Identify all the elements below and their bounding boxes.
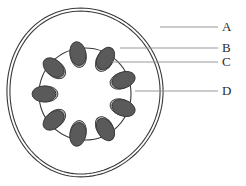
microtubule-doublet-group <box>32 40 138 147</box>
label-b: B <box>222 41 231 54</box>
cilium-cross-section-diagram <box>0 0 246 186</box>
microtubule-doublet <box>108 68 138 92</box>
label-c: C <box>222 55 231 68</box>
doublet-dark-subfiber <box>32 86 56 102</box>
microtubule-doublet <box>108 96 138 120</box>
microtubule-doublet <box>32 86 58 102</box>
figure-canvas: A B C D <box>0 0 246 186</box>
outer-membrane-group <box>7 8 163 177</box>
label-d: D <box>222 84 232 97</box>
microtubule-doublet <box>68 40 88 68</box>
microtubule-doublet <box>39 105 69 134</box>
microtubule-doublet <box>39 54 69 83</box>
microtubule-doublet <box>68 119 88 147</box>
label-a: A <box>222 20 232 33</box>
